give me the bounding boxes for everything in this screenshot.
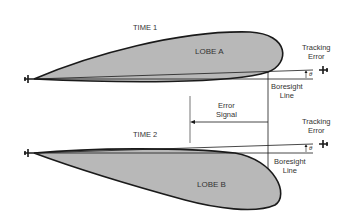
tracking-error-label-1: Tracking Error xyxy=(302,43,330,61)
theta-label-1: θ xyxy=(309,70,312,79)
lobe-b-label: LOBE B xyxy=(197,180,226,189)
radar-aircraft-icon-2 xyxy=(24,149,34,157)
lobe-a-label: LOBE A xyxy=(195,47,223,56)
target-aircraft-icon-1 xyxy=(319,66,328,74)
lobing-diagram xyxy=(0,0,347,216)
error-signal-label: Error Signal xyxy=(216,101,237,119)
boresight-label-1: Boresight Line xyxy=(271,82,303,100)
target-aircraft-icon-2 xyxy=(319,140,328,148)
boresight-label-2: Boresight Line xyxy=(274,157,306,175)
radar-aircraft-icon-1 xyxy=(24,75,34,83)
theta-label-2: θ xyxy=(309,144,312,153)
lobe-b xyxy=(34,149,281,210)
time2-label: TIME 2 xyxy=(133,130,157,139)
lobe-a xyxy=(34,32,283,82)
time1-label: TIME 1 xyxy=(133,23,157,32)
tracking-error-label-2: Tracking Error xyxy=(302,117,330,135)
